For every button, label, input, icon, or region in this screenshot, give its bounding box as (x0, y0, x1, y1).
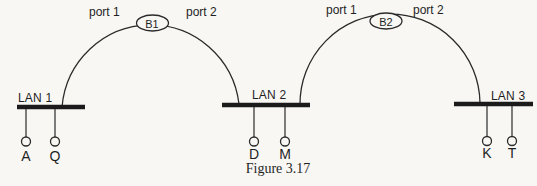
host-a-label: A (21, 149, 30, 163)
host-t-label: T (508, 146, 517, 160)
figure-caption: Figure 3.17 (246, 162, 311, 176)
lan2-label: LAN 2 (252, 89, 286, 101)
host-q-label: Q (50, 149, 61, 163)
bridge-b1-label: B1 (145, 19, 158, 30)
host-m-node-circle (281, 137, 290, 146)
b2-port2-label: port 2 (413, 4, 444, 16)
link-lan1-b1-b1-lan2 (62, 25, 239, 107)
lan1-label: LAN 1 (18, 92, 52, 104)
network-bridge-diagram: port 1 port 2 port 1 port 2 B1 B2 LAN 1 … (0, 0, 537, 186)
bridge-b2-label: B2 (379, 17, 392, 28)
host-k-label: K (482, 146, 491, 160)
host-m-label: M (279, 147, 291, 161)
b1-port2-label: port 2 (186, 6, 217, 18)
host-a-node-circle (22, 137, 31, 146)
b1-port1-label: port 1 (89, 6, 120, 18)
host-d-node-circle (250, 137, 259, 146)
host-d-label: D (249, 147, 259, 161)
host-q-node-circle (51, 137, 60, 146)
b2-port1-label: port 1 (326, 4, 357, 16)
lan3-label: LAN 3 (491, 90, 525, 102)
